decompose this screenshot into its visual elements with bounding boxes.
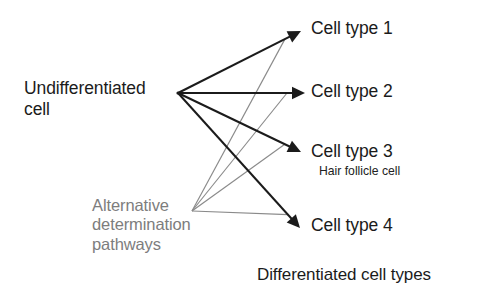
cell-type-2-label: Cell type 2 xyxy=(311,81,393,102)
cell-type-3-sublabel: Hair follicle cell xyxy=(319,164,400,178)
arrow-shaft-cell-type-1 xyxy=(178,36,291,93)
alternative-path-to-cell-type-2 xyxy=(192,93,287,211)
cell-type-1-label: Cell type 1 xyxy=(311,18,393,39)
alternative-path-to-cell-type-4 xyxy=(192,211,288,215)
diagram-canvas xyxy=(0,0,486,302)
alternative-determination-pathways-label: Alternative determination pathways xyxy=(92,196,191,254)
alternative-pathways-group xyxy=(192,39,288,215)
cell-differentiation-diagram: Undifferentiated cell Cell type 1 Cell t… xyxy=(0,0,486,302)
differentiated-cell-types-caption: Differentiated cell types xyxy=(257,265,431,285)
cell-type-4-label: Cell type 4 xyxy=(311,215,393,236)
arrow-head-cell-type-2 xyxy=(292,87,305,99)
differentiation-arrows-group xyxy=(176,31,305,228)
undifferentiated-cell-label: Undifferentiated cell xyxy=(24,78,146,119)
cell-type-3-label: Cell type 3 xyxy=(311,141,393,162)
arrow-shaft-cell-type-4 xyxy=(178,93,292,219)
undifferentiated-cell-node xyxy=(176,91,179,94)
arrow-shaft-cell-type-3 xyxy=(178,93,291,147)
